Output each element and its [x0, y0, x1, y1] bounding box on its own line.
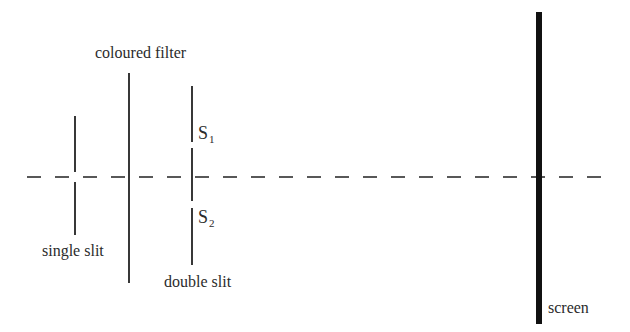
s2-subscript: 2	[209, 217, 215, 229]
screen-label: screen	[548, 300, 589, 316]
s1-letter: S	[198, 123, 208, 143]
single-slit-label: single slit	[42, 243, 104, 259]
double-slit-label: double slit	[164, 274, 231, 290]
screen	[536, 12, 542, 324]
coloured-filter-label: coloured filter	[95, 45, 186, 61]
s2-label: S2	[198, 208, 215, 226]
s2-letter: S	[198, 207, 208, 227]
s1-label: S1	[198, 124, 215, 142]
s1-subscript: 1	[209, 133, 215, 145]
